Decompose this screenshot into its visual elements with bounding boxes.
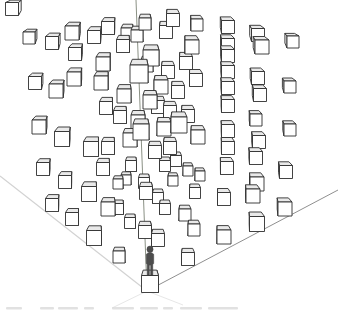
- cube-face: [182, 248, 195, 252]
- cube-face: [117, 85, 131, 89]
- cube-face: [171, 156, 182, 167]
- cube-face: [97, 163, 110, 176]
- cube: [96, 53, 110, 71]
- cube-face: [142, 276, 159, 293]
- cube: [285, 33, 299, 48]
- cube: [221, 62, 235, 79]
- cube: [114, 106, 127, 123]
- cube: [29, 73, 43, 89]
- cube: [252, 85, 266, 102]
- cropped-caption-fragment: [58, 307, 78, 310]
- cube: [126, 157, 137, 172]
- cube-face: [246, 185, 260, 189]
- cube-face: [87, 231, 102, 246]
- cube-face: [164, 137, 177, 141]
- cube: [139, 221, 152, 238]
- cube: [160, 157, 171, 172]
- cube: [46, 195, 59, 212]
- cube-face: [133, 124, 149, 140]
- cube-face: [278, 202, 292, 216]
- cube-face: [88, 31, 101, 44]
- cube: [23, 29, 37, 44]
- cube-face: [152, 234, 165, 247]
- cube-face: [113, 251, 125, 263]
- cube-face: [65, 26, 79, 40]
- cube-face: [88, 27, 102, 31]
- cube-face: [222, 21, 235, 34]
- cube-face: [188, 220, 200, 224]
- cube-face: [250, 114, 262, 126]
- vertical-axis-line: [136, 0, 147, 291]
- cube-face: [82, 182, 97, 187]
- cube: [102, 18, 115, 35]
- cube-face: [117, 40, 130, 53]
- cube: [117, 35, 130, 52]
- cube: [172, 81, 185, 98]
- cube: [160, 200, 171, 215]
- cube-face: [191, 15, 203, 19]
- cube-face: [249, 111, 262, 114]
- cube-face: [6, 3, 19, 16]
- cube-face: [139, 18, 151, 30]
- cube: [117, 85, 131, 103]
- cube-face: [162, 61, 175, 65]
- cube: [157, 118, 171, 137]
- cube: [253, 37, 269, 55]
- cube-face: [220, 158, 233, 162]
- cube-face: [29, 73, 43, 76]
- cube-face: [250, 217, 265, 232]
- cube-face: [59, 172, 72, 176]
- cube-face: [222, 125, 235, 138]
- cube-face: [222, 82, 235, 95]
- cube-face: [66, 213, 79, 226]
- cube: [143, 91, 157, 110]
- cube: [218, 189, 231, 206]
- cube: [46, 33, 61, 49]
- cube-face: [252, 72, 265, 85]
- cube-face: [69, 44, 83, 48]
- cropped-caption-fragment: [6, 307, 22, 310]
- cube-face: [96, 53, 110, 57]
- cube-face: [153, 189, 164, 193]
- cube-face: [94, 76, 108, 90]
- cube-face: [126, 157, 137, 161]
- axis-faint-extension-line: [112, 291, 147, 308]
- cropped-caption-fragment: [180, 307, 202, 310]
- cube-face: [160, 26, 173, 39]
- cube: [217, 226, 231, 244]
- cube: [282, 78, 296, 93]
- cube: [246, 185, 260, 203]
- cube-face: [117, 89, 131, 103]
- cube: [67, 68, 82, 86]
- cube-face: [254, 89, 267, 102]
- human-figure-head: [147, 246, 153, 253]
- 3d-scene-canvas: [0, 0, 338, 313]
- cube: [277, 198, 292, 216]
- cube-face: [23, 32, 35, 44]
- cube-face: [182, 253, 195, 266]
- cube: [191, 126, 205, 144]
- cube-face: [252, 85, 266, 89]
- cropped-caption-fragment: [163, 307, 173, 310]
- cube: [252, 132, 266, 149]
- cube-face: [154, 76, 168, 81]
- cube: [221, 138, 234, 155]
- cube-face: [249, 212, 264, 217]
- cube-face: [37, 159, 51, 163]
- cube-face: [149, 146, 162, 159]
- cube-face: [221, 162, 234, 175]
- cube-face: [126, 161, 137, 172]
- cube-face: [130, 65, 148, 83]
- figure-3d-cube-grid: [0, 0, 338, 313]
- cube-face: [183, 166, 193, 176]
- cube-face: [250, 173, 265, 177]
- cube-face: [160, 204, 171, 215]
- cube: [130, 59, 148, 83]
- cube: [87, 226, 102, 246]
- cube-face: [143, 95, 157, 109]
- cube-face: [255, 40, 269, 54]
- cube: [125, 214, 136, 229]
- cube-face: [139, 14, 151, 18]
- cube: [84, 137, 99, 157]
- cube-face: [143, 91, 157, 96]
